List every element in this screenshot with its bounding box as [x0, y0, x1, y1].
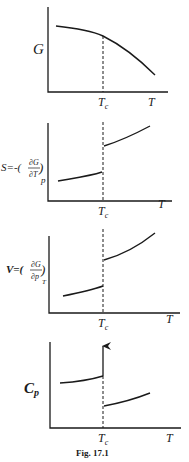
y-label-den: ∂p	[31, 272, 39, 281]
panel-volume: V=( ∂G ∂p ) T Tc T	[6, 229, 180, 332]
y-label-sub: p	[40, 175, 46, 185]
y-label: Cp	[24, 380, 39, 398]
x-label: T	[166, 312, 174, 326]
x-label: T	[158, 197, 166, 211]
v-curve-high	[104, 233, 155, 260]
axes	[50, 342, 181, 428]
tc-label: Tc	[98, 431, 109, 447]
phase-transition-figure: G Tc T S=-( ∂G ∂T ) p Tc T V=( ∂G ∂p ) T…	[0, 0, 189, 462]
y-label-close: )	[38, 160, 43, 175]
y-axis	[48, 7, 168, 92]
figure-caption: Fig. 17.1	[76, 448, 109, 458]
tc-label: Tc	[98, 95, 109, 111]
y-label: S=-(	[1, 161, 23, 174]
axes	[48, 123, 172, 201]
x-label: T	[166, 431, 174, 445]
panel-heat-capacity: Cp Tc T	[24, 342, 181, 447]
panel-entropy: S=-( ∂G ∂T ) p Tc T	[1, 122, 172, 220]
y-label: G	[33, 41, 44, 57]
y-label-den: ∂T	[29, 170, 38, 179]
y-label-close: )	[40, 262, 45, 277]
y-label-num: ∂G	[29, 158, 39, 167]
y-label: V=(	[6, 263, 25, 276]
cp-curve-low	[60, 376, 103, 383]
x-label: T	[148, 95, 156, 109]
s-curve-high	[104, 126, 150, 146]
axes	[49, 236, 180, 313]
y-label-num: ∂G	[31, 260, 41, 269]
cp-curve-high	[104, 393, 150, 406]
s-curve-low	[58, 172, 102, 181]
v-curve-low	[63, 286, 103, 296]
tc-label: Tc	[98, 316, 109, 332]
y-label-sub: T	[42, 278, 47, 286]
tc-label: Tc	[98, 204, 109, 220]
panel-gibbs: G Tc T	[33, 7, 168, 111]
g-curve	[56, 26, 155, 75]
